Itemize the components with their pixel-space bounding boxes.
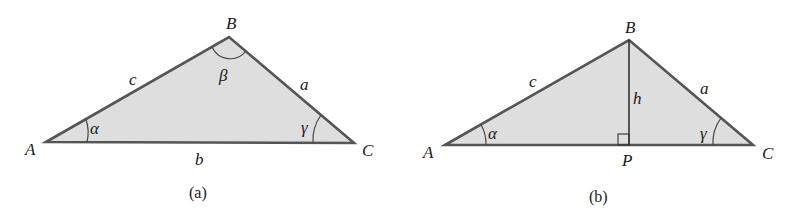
vertex-label-a: A (24, 140, 36, 159)
vertex-label-b-b: B (625, 18, 636, 37)
side-label-c: c (129, 70, 137, 89)
side-label-b: b (195, 150, 204, 169)
vertex-label-p: P (621, 151, 632, 170)
vertex-label-c: C (362, 141, 374, 160)
triangle-diagrams: A B C c a b α β γ (a) A B C P c a h α γ … (0, 0, 798, 219)
vertex-label-a-b: A (422, 143, 434, 162)
caption-a: (a) (189, 184, 207, 202)
side-label-a-b: a (700, 79, 709, 98)
caption-b: (b) (589, 188, 608, 206)
angle-label-alpha: α (90, 119, 100, 138)
vertex-label-b: B (226, 14, 237, 33)
angle-label-beta: β (218, 66, 228, 85)
vertex-label-c-b: C (762, 144, 774, 163)
figure-a: A B C c a b α β γ (a) (24, 14, 374, 202)
angle-label-alpha-b: α (488, 124, 498, 143)
side-label-a: a (300, 75, 309, 94)
figure-b: A B C P c a h α γ (b) (422, 18, 774, 206)
side-label-c-b: c (529, 72, 537, 91)
altitude-label-h: h (633, 89, 642, 108)
